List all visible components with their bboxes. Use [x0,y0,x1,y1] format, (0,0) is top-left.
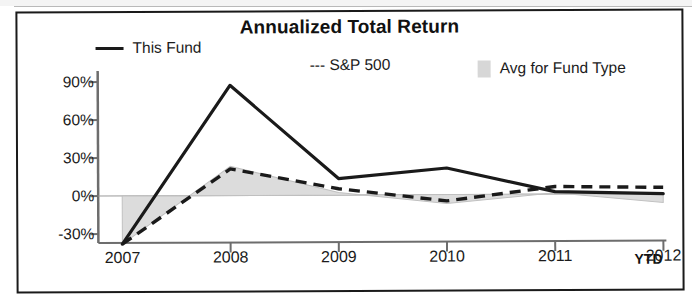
scan-page-margin [0,6,14,306]
x-axis-tick-labels: YTD 200720082009201020112012 [17,11,686,296]
x-axis-tick-label: 2012 [646,247,682,265]
chart-frame: Annualized Total Return This Fund --- S&… [15,9,684,294]
x-axis-tick-label: 2008 [213,248,249,266]
scan-page-edge [0,0,692,7]
x-axis-tick-label: 2009 [321,248,357,266]
x-axis-tick-label: 2011 [538,247,572,265]
chart-inner: Annualized Total Return This Fund --- S&… [17,11,682,292]
x-axis-tick-label: 2010 [429,247,465,265]
x-axis-tick-label: 2007 [105,249,141,267]
